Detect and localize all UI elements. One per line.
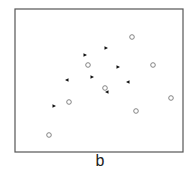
- open-circle-marker: [151, 63, 156, 68]
- left-triangle-marker: [126, 80, 130, 84]
- left-triangle-marker: [105, 90, 109, 94]
- right-triangle-marker: [91, 75, 95, 79]
- right-triangle-marker: [105, 46, 109, 50]
- markers-group: [47, 35, 174, 138]
- panel-label: b: [0, 151, 194, 171]
- scatter-plot: [0, 0, 194, 172]
- right-triangle-marker: [84, 53, 88, 57]
- open-circle-marker: [47, 133, 52, 138]
- open-circle-marker: [103, 86, 108, 91]
- open-circle-marker: [86, 63, 91, 68]
- left-triangle-marker: [65, 78, 69, 82]
- open-circle-marker: [67, 100, 72, 105]
- open-circle-marker: [169, 96, 174, 101]
- open-circle-marker: [134, 109, 139, 114]
- open-circle-marker: [130, 35, 135, 40]
- right-triangle-marker: [53, 104, 57, 108]
- plot-frame: [15, 9, 183, 152]
- right-triangle-marker: [117, 65, 121, 69]
